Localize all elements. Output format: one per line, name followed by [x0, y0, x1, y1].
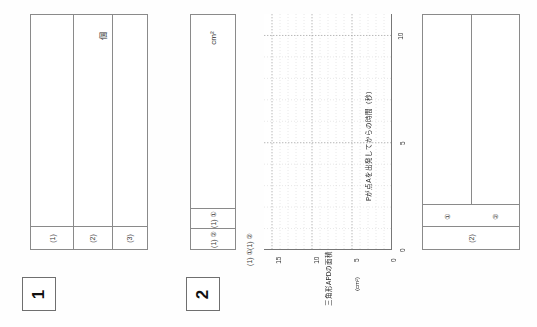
q3-answer-cell-1[interactable] [423, 15, 471, 205]
graph-answer-area: 0 5 10 0 5 10 15 Pが点Aを出発してからの時間（秒） [264, 14, 392, 250]
question-1-answer-block: (1) (2) (3) 個 [30, 14, 148, 250]
graph-ytick-10: 10 [314, 256, 321, 264]
question-1-number-box: 1 [22, 277, 56, 311]
q3-answer-cell-2[interactable] [471, 15, 519, 205]
q2-label-1: (1) ① [191, 209, 235, 229]
graph-x-axis-label: Pが点Aを出発してからの時間（秒） [312, 132, 426, 150]
question-2-number-box: 2 [186, 277, 220, 311]
q3-label-2: (2) [423, 227, 519, 249]
graph-ytick-15: 15 [276, 256, 283, 264]
q3-label-row-top: ① ② [423, 204, 519, 227]
q1-answer-cell-1[interactable] [31, 15, 74, 249]
q2-side-label-2: (1) ② [242, 233, 256, 249]
q3-label-circle-1: ① [423, 205, 471, 227]
graph-ytick-5: 5 [355, 256, 359, 264]
graph-xtick-0: 0 [401, 246, 405, 254]
question-3-table: ① ② (2) [422, 14, 520, 250]
q2-side-label-1: (1) ① [242, 249, 256, 265]
q3-label-row-bottom: (2) [423, 226, 519, 249]
q1-label-2: (2) [73, 227, 113, 249]
answer-sheet: (1) (2) (3) 個 1 (1) ① [0, 0, 537, 327]
q1-unit-label: 個 [96, 28, 112, 44]
q1-label-3: (3) [112, 227, 147, 249]
q2-label-row-1: (1) ① [191, 208, 235, 229]
q2-label-2: (1) ② [191, 229, 235, 249]
question-2-answer-block: (1) ① (1) ② cm² [190, 14, 236, 250]
q2-unit-label: cm² [204, 28, 224, 48]
q1-label-1: (1) [31, 227, 74, 249]
graph-plot-area[interactable]: 0 5 10 0 5 10 15 Pが点Aを出発してからの時間（秒） [264, 14, 392, 250]
graph-ytick-0: 0 [392, 256, 396, 264]
q3-label-circle-2: ② [471, 205, 519, 227]
question-1-table: (1) (2) (3) [30, 14, 148, 250]
question-3-answer-block: ① ② (2) [422, 14, 520, 250]
graph-y-axis-unit: (cm²) [350, 272, 364, 290]
q1-label-row: (1) (2) (3) [31, 226, 147, 249]
q1-answer-cell-2[interactable] [73, 15, 113, 249]
question-2-table: (1) ① (1) ② [190, 14, 236, 250]
q2-label-row-2: (1) ② [191, 228, 235, 249]
q1-answer-cell-3[interactable] [112, 15, 147, 249]
graph-xtick-10: 10 [398, 32, 405, 40]
